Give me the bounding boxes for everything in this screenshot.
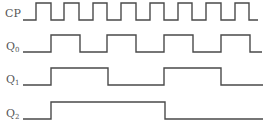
signal-q2: Q2	[6, 102, 263, 121]
signal-q0: Q0	[6, 35, 262, 54]
waveform-q0	[23, 35, 262, 52]
label-cp: CP	[5, 7, 21, 20]
signal-cp: CP	[5, 3, 258, 20]
timing-diagram: CP Q0 Q1 Q2	[0, 0, 265, 128]
waveform-q2	[23, 102, 263, 119]
waveform-cp	[23, 3, 258, 20]
waveform-q1	[23, 68, 263, 85]
signal-q1: Q1	[6, 68, 263, 87]
label-q0: Q0	[6, 40, 20, 54]
label-q2: Q2	[6, 107, 20, 121]
label-q1: Q1	[6, 73, 20, 87]
